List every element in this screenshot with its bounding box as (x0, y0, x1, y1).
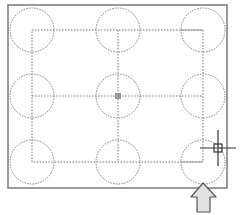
center-grip-marker[interactable] (115, 93, 121, 99)
drawing-canvas[interactable] (0, 0, 241, 215)
